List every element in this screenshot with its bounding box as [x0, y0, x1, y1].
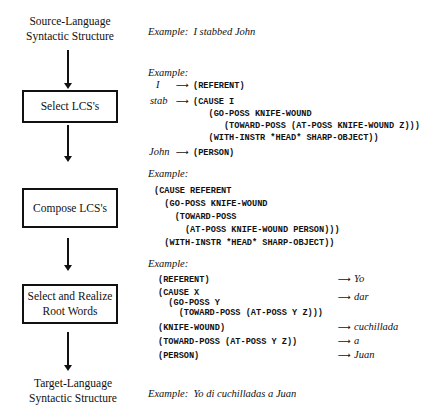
- mapping-word: a: [354, 335, 359, 346]
- select-realize-label-line-2: Root Words: [43, 304, 98, 319]
- compose-lcs-label: Compose LCS's: [33, 201, 107, 216]
- target-sentence: Yo di cuchilladas a Juan: [193, 388, 296, 399]
- example-prefix: Example:: [148, 168, 188, 179]
- down-arrow-icon: [67, 50, 69, 84]
- select-lcs-box: Select LCS's: [22, 90, 118, 123]
- mapping-lcs: (PERSON): [193, 147, 234, 159]
- target-label-line-2: Syntactic Structure: [3, 391, 143, 406]
- mapping-lcs: (REFERENT): [193, 80, 245, 92]
- source-sentence: I stabbed John: [193, 26, 255, 37]
- compose-lcs-box: Compose LCS's: [22, 188, 118, 228]
- maps-to-arrow-icon: ⟶: [338, 322, 351, 332]
- down-arrow-icon: [67, 238, 69, 266]
- mapping-lcs: (CAUSE X (GO-POSS Y (TOWARD-POSS (AT-POS…: [158, 288, 323, 318]
- maps-to-arrow-icon: ⟶: [338, 274, 351, 284]
- source-language-label: Source-Language Syntactic Structure: [0, 14, 140, 44]
- mapping-word: cuchillada: [354, 321, 398, 332]
- maps-to-arrow-icon: ⟶: [338, 292, 351, 302]
- target-example: Example: Yo di cuchilladas a Juan: [148, 388, 296, 399]
- maps-to-arrow-icon: ⟶: [176, 147, 189, 157]
- select-realize-label-line-1: Select and Realize: [28, 289, 113, 304]
- target-label-line-1: Target-Language: [3, 376, 143, 391]
- source-example: Example: I stabbed John: [148, 26, 255, 37]
- example-prefix: Example:: [148, 67, 188, 78]
- composed-lcs: (CAUSE REFERENT (GO-POSS KNIFE-WOUND (TO…: [154, 185, 340, 250]
- mapping-lcs: (PERSON): [158, 350, 199, 362]
- maps-to-arrow-icon: ⟶: [338, 336, 351, 346]
- mapping-lcs: (REFERENT): [158, 274, 210, 286]
- source-label-line-1: Source-Language: [0, 14, 140, 29]
- example-prefix: Example:: [148, 26, 188, 37]
- mapping-word: John: [149, 146, 169, 157]
- mapping-lcs: (TOWARD-POSS (AT-POSS Y Z)): [158, 336, 297, 348]
- mapping-word: Yo: [354, 273, 364, 284]
- mapping-word: dar: [354, 291, 369, 302]
- maps-to-arrow-icon: ⟶: [176, 80, 189, 90]
- mapping-word: stab: [150, 95, 168, 106]
- example-prefix: Example:: [148, 388, 188, 399]
- mapping-word: I: [156, 79, 160, 90]
- down-arrow-icon: [67, 125, 69, 157]
- example-prefix: Example:: [148, 258, 188, 269]
- mapping-lcs: (CAUSE I (GO-POSS KNIFE-WOUND (TOWARD-PO…: [193, 96, 420, 144]
- down-arrow-icon: [67, 332, 69, 366]
- select-lcs-label: Select LCS's: [41, 99, 100, 114]
- source-label-line-2: Syntactic Structure: [0, 29, 140, 44]
- mapping-word: Juan: [354, 349, 374, 360]
- target-language-label: Target-Language Syntactic Structure: [3, 376, 143, 406]
- select-realize-box: Select and Realize Root Words: [22, 284, 118, 324]
- maps-to-arrow-icon: ⟶: [338, 350, 351, 360]
- maps-to-arrow-icon: ⟶: [176, 96, 189, 106]
- mapping-lcs: (KNIFE-WOUND): [158, 322, 225, 334]
